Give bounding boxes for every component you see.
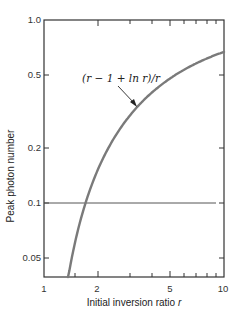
y-axis-label: Peak photon number: [5, 129, 16, 223]
y-tick-label-1: 1.0: [28, 14, 41, 25]
x-tick-label-1: 1: [41, 283, 46, 294]
x-axis-label: Initial inversion ratio r: [87, 297, 182, 308]
annotation-arrow-shaft: [118, 86, 134, 103]
chart: 1.0 0.5 0.2 0.1 0.05 1 2 5 10 Initial in…: [0, 0, 238, 313]
y-tick-label-0-1: 0.1: [28, 197, 41, 208]
y-tick-label-0-5: 0.5: [28, 69, 41, 80]
plot-frame: [44, 20, 224, 277]
y-tick-label-0-05: 0.05: [23, 252, 42, 263]
x-tick-label-2: 2: [94, 283, 99, 294]
x-tick-label-5: 5: [167, 283, 172, 294]
curve-peak-photon: [68, 52, 224, 277]
y-tick-label-0-2: 0.2: [28, 142, 41, 153]
x-tick-label-10: 10: [218, 283, 229, 294]
curve-annotation: (r − 1 + ln r)/r: [82, 72, 161, 84]
x-axis-ticks: [75, 20, 216, 277]
